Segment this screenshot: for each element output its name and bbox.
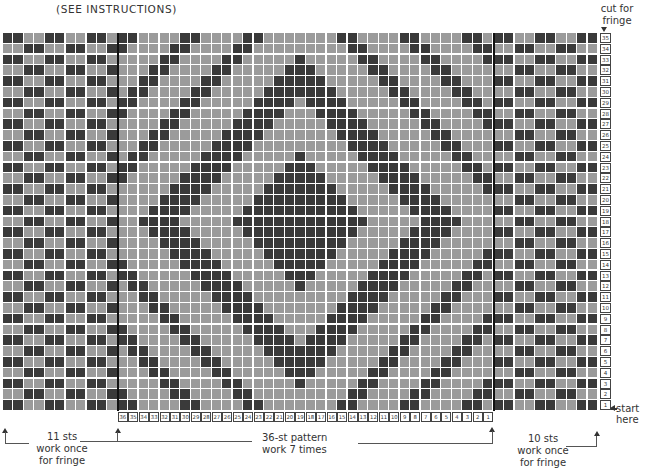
- right-fringe-arrow-icon: [594, 431, 600, 436]
- chart-cell: [160, 335, 169, 345]
- chart-cell: [337, 368, 346, 378]
- chart-cell: [128, 195, 137, 205]
- chart-cell: [66, 335, 75, 345]
- chart-cell: [285, 357, 294, 367]
- chart-cell: [431, 357, 440, 367]
- chart-cell: [556, 109, 565, 119]
- chart-cell: [473, 44, 482, 54]
- chart-cell: [191, 303, 200, 313]
- chart-cell: [3, 271, 12, 281]
- chart-cell: [3, 109, 12, 119]
- chart-cell: [13, 119, 22, 129]
- chart-cell: [316, 217, 325, 227]
- chart-cell: [243, 271, 252, 281]
- chart-cell: [149, 44, 158, 54]
- chart-cell: [389, 271, 398, 281]
- chart-cell: [233, 65, 242, 75]
- chart-cell: [170, 195, 179, 205]
- chart-cell: [368, 281, 377, 291]
- chart-cell: [180, 152, 189, 162]
- chart-cell: [212, 44, 221, 54]
- column-number: 30: [180, 412, 190, 422]
- chart-cell: [421, 65, 430, 75]
- chart-cell: [222, 65, 231, 75]
- chart-cell: [3, 379, 12, 389]
- chart-cell: [588, 335, 597, 345]
- chart-cell: [515, 379, 524, 389]
- chart-cell: [525, 238, 534, 248]
- chart-cell: [191, 33, 200, 43]
- chart-cell: [295, 33, 304, 43]
- row-number: 11: [600, 292, 611, 302]
- chart-cell: [285, 260, 294, 270]
- chart-cell: [567, 303, 576, 313]
- chart-cell: [233, 281, 242, 291]
- chart-cell: [441, 292, 450, 302]
- chart-cell: [337, 281, 346, 291]
- chart-cell: [567, 163, 576, 173]
- chart-cell: [212, 119, 221, 129]
- chart-cell: [473, 249, 482, 259]
- chart-cell: [212, 400, 221, 410]
- chart-cell: [577, 173, 586, 183]
- chart-cell: [379, 227, 388, 237]
- chart-cell: [515, 238, 524, 248]
- chart-cell: [170, 303, 179, 313]
- chart-cell: [3, 346, 12, 356]
- chart-cell: [201, 109, 210, 119]
- chart-cell: [274, 141, 283, 151]
- chart-cell: [431, 44, 440, 54]
- chart-cell: [515, 44, 524, 54]
- chart-cell: [421, 217, 430, 227]
- chart-cell: [546, 379, 555, 389]
- chart-cell: [556, 238, 565, 248]
- chart-cell: [243, 173, 252, 183]
- chart-cell: [295, 76, 304, 86]
- chart-cell: [76, 400, 85, 410]
- chart-cell: [160, 357, 169, 367]
- chart-cell: [295, 44, 304, 54]
- chart-cell: [567, 346, 576, 356]
- chart-cell: [368, 141, 377, 151]
- chart-cell: [358, 227, 367, 237]
- chart-cell: [254, 368, 263, 378]
- chart-cell: [3, 65, 12, 75]
- chart-cell: [473, 87, 482, 97]
- chart-cell: [473, 400, 482, 410]
- chart-cell: [588, 325, 597, 335]
- chart-cell: [87, 357, 96, 367]
- chart-cell: [97, 281, 106, 291]
- chart-cell: [34, 119, 43, 129]
- chart-cell: [24, 163, 33, 173]
- chart-cell: [306, 389, 315, 399]
- chart-cell: [368, 357, 377, 367]
- chart-cell: [191, 206, 200, 216]
- chart-cell: [295, 249, 304, 259]
- chart-cell: [441, 98, 450, 108]
- chart-cell: [400, 400, 409, 410]
- chart-cell: [556, 346, 565, 356]
- chart-cell: [577, 260, 586, 270]
- chart-cell: [243, 55, 252, 65]
- row-number: 27: [600, 119, 611, 129]
- chart-cell: [556, 325, 565, 335]
- chart-cell: [337, 379, 346, 389]
- chart-cell: [76, 98, 85, 108]
- chart-cell: [76, 109, 85, 119]
- chart-cell: [34, 346, 43, 356]
- chart-cell: [180, 335, 189, 345]
- chart-cell: [546, 281, 555, 291]
- chart-cell: [441, 357, 450, 367]
- chart-cell: [45, 195, 54, 205]
- chart-cell: [87, 271, 96, 281]
- chart-cell: [577, 119, 586, 129]
- chart-cell: [222, 335, 231, 345]
- chart-cell: [107, 314, 116, 324]
- chart-cell: [410, 325, 419, 335]
- chart-cell: [160, 206, 169, 216]
- chart-cell: [515, 33, 524, 43]
- chart-cell: [577, 141, 586, 151]
- chart-cell: [128, 76, 137, 86]
- chart-cell: [66, 271, 75, 281]
- column-number: 33: [149, 412, 159, 422]
